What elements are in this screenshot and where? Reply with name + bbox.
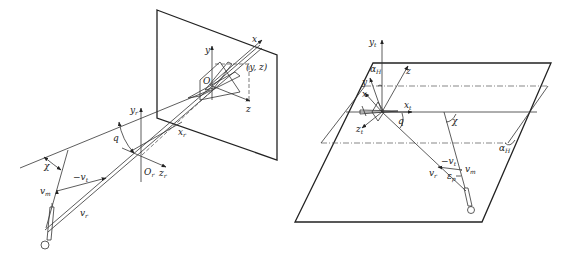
missile-icon [464,188,475,214]
label-yt: yt [368,37,377,48]
label-vm: vm [465,164,476,175]
line-of-sight [45,45,260,230]
label-chi: χ [43,161,50,171]
label-x: x [362,89,367,99]
label-yz: (y, z) [246,62,268,72]
aircraft-target-icon [360,102,398,121]
label-q: q [398,116,404,126]
xr-line [133,122,182,150]
target-plane [157,10,277,160]
zr-axis [122,148,166,167]
right-panel: yt αH z y x xt zt q χ αH −vt vr vm εp [295,37,551,222]
label-y: y [204,45,211,55]
dashed-projection [142,88,215,155]
label-zr: zr [158,168,168,179]
label-alpha-top: αH [370,64,382,75]
label-O: O [203,76,211,86]
label-zt: zt [355,124,364,135]
label-vr: vr [429,168,438,179]
inclined-plane-left-edge [321,86,365,143]
label-vr: vr [80,208,89,219]
label-Or: Or [144,167,155,178]
label-xt: xt [404,100,412,111]
inclined-plane-right-edge [508,86,548,143]
left-panel: x y (y, z) O z yr xr Or zr q χ −vt vm vr [20,10,277,249]
label-q: q [113,133,119,143]
missile-icon [41,203,54,249]
line-of-sight-parallel [48,48,262,232]
label-eps: εp [447,171,456,183]
label-chi: χ [451,116,458,126]
label-z: z [245,104,251,114]
horizontal-plane [295,63,551,222]
diagram-canvas: x y (y, z) O z yr xr Or zr q χ −vt vm vr [0,0,565,262]
label-x: x [252,34,257,44]
label-yr: yr [129,105,139,116]
label-vm: vm [40,186,51,197]
y-axis-arrow [370,78,382,112]
label-z: z [405,66,411,76]
label-neg-vt: −vt [73,172,89,183]
label-neg-vt: −vt [441,156,457,167]
label-y: y [361,77,368,87]
